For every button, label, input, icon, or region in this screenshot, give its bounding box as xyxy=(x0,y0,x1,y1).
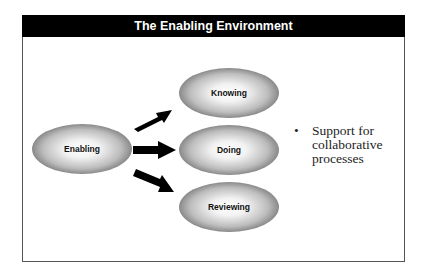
node-label: Doing xyxy=(217,145,241,155)
node-label: Reviewing xyxy=(208,202,250,212)
node-knowing: Knowing xyxy=(179,68,279,118)
bullet-list: • Support for collaborative processes xyxy=(292,124,402,166)
slide-title: The Enabling Environment xyxy=(22,15,405,37)
node-enabling: Enabling xyxy=(32,124,132,174)
node-reviewing: Reviewing xyxy=(179,182,279,232)
bullet-item: • Support for collaborative processes xyxy=(292,124,402,166)
bullet-text: Support for collaborative processes xyxy=(312,123,382,166)
node-label: Enabling xyxy=(64,144,100,154)
arrow-up-right-icon xyxy=(130,105,180,133)
arrow-down-right-icon xyxy=(130,168,180,196)
node-label: Knowing xyxy=(211,88,247,98)
node-doing: Doing xyxy=(179,125,279,175)
arrow-right-icon xyxy=(132,140,180,160)
bullet-marker: • xyxy=(294,124,299,138)
